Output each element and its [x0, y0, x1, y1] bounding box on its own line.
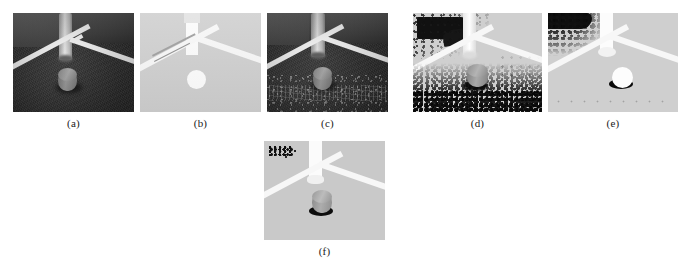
panel-c-image	[267, 13, 388, 112]
panel-b-image	[140, 13, 261, 112]
panel-d-caption: (d)	[413, 117, 542, 129]
panel-a-image	[13, 13, 134, 112]
panel-d-image	[413, 13, 542, 112]
figure-root: ............ (a)	[0, 0, 683, 271]
panel-f-image	[264, 141, 385, 240]
panel-e-image	[548, 13, 678, 112]
panel-e-caption: (e)	[548, 117, 678, 129]
panel-c-caption: (c)	[267, 117, 388, 129]
panel-f-caption: (f)	[264, 245, 385, 257]
panel-b-caption: (b)	[140, 117, 261, 129]
panel-a-caption: (a)	[13, 117, 134, 129]
